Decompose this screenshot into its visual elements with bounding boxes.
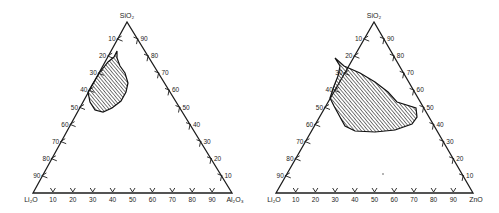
svg-text:90: 90 <box>208 196 216 203</box>
svg-text:60: 60 <box>417 86 425 93</box>
svg-text:70: 70 <box>296 138 304 145</box>
svg-text:90: 90 <box>33 172 41 179</box>
svg-text:70: 70 <box>169 196 177 203</box>
svg-text:70: 70 <box>52 138 60 145</box>
ternary-diagram-li2o-al2o3-sio2: 1020304050607080909080706050403020101020… <box>24 12 244 203</box>
svg-text:90: 90 <box>450 196 458 203</box>
vertex-label-right: Al₂O₃ <box>226 196 243 203</box>
svg-text:60: 60 <box>172 86 180 93</box>
svg-text:20: 20 <box>69 196 77 203</box>
svg-text:30: 30 <box>204 138 212 145</box>
svg-text:30: 30 <box>90 69 98 76</box>
svg-text:10: 10 <box>292 196 300 203</box>
tick-marks <box>41 36 222 192</box>
svg-text:60: 60 <box>391 196 399 203</box>
svg-text:80: 80 <box>151 52 159 59</box>
svg-text:20: 20 <box>345 52 353 59</box>
svg-text:40: 40 <box>351 196 359 203</box>
svg-text:10: 10 <box>355 35 363 42</box>
svg-text:60: 60 <box>306 121 314 128</box>
svg-text:10: 10 <box>225 172 233 179</box>
vertex-label-left: Li₂O <box>267 196 281 203</box>
svg-text:40: 40 <box>436 121 444 128</box>
svg-text:60: 60 <box>149 196 157 203</box>
vertex-label-top: SiO₂ <box>120 12 135 19</box>
svg-text:20: 20 <box>456 155 464 162</box>
svg-text:80: 80 <box>286 155 294 162</box>
svg-text:80: 80 <box>430 196 438 203</box>
svg-text:90: 90 <box>387 35 395 42</box>
svg-text:30: 30 <box>446 138 454 145</box>
svg-text:10: 10 <box>49 196 57 203</box>
svg-text:70: 70 <box>162 69 170 76</box>
svg-text:10: 10 <box>108 35 116 42</box>
svg-text:30: 30 <box>89 196 97 203</box>
svg-text:50: 50 <box>316 104 324 111</box>
svg-text:20: 20 <box>214 155 222 162</box>
svg-text:50: 50 <box>71 104 79 111</box>
triangle-outline <box>33 22 232 193</box>
svg-text:70: 70 <box>407 69 415 76</box>
svg-text:80: 80 <box>189 196 197 203</box>
vertex-label-right: ZnO <box>469 196 483 203</box>
glass-forming-region <box>330 58 417 132</box>
svg-text:20: 20 <box>99 52 107 59</box>
glass-forming-region <box>88 51 128 112</box>
ternary-diagrams: 1020304050607080909080706050403020101020… <box>0 0 499 213</box>
svg-text:50: 50 <box>427 104 435 111</box>
svg-text:30: 30 <box>335 69 343 76</box>
svg-text:60: 60 <box>61 121 69 128</box>
svg-text:10: 10 <box>466 172 474 179</box>
ternary-diagram-li2o-zno-sio2: 1020304050607080909080706050403020101020… <box>267 12 483 203</box>
svg-text:40: 40 <box>326 86 334 93</box>
svg-text:50: 50 <box>183 104 191 111</box>
tick-labels: 1020304050607080909080706050403020101020… <box>33 35 232 203</box>
svg-text:70: 70 <box>410 196 418 203</box>
svg-text:30: 30 <box>331 196 339 203</box>
svg-text:50: 50 <box>371 196 379 203</box>
svg-text:80: 80 <box>397 52 405 59</box>
svg-text:40: 40 <box>109 196 117 203</box>
speck <box>382 173 384 175</box>
svg-text:20: 20 <box>312 196 320 203</box>
vertex-label-left: Li₂O <box>24 196 38 203</box>
vertex-label-top: SiO₂ <box>367 12 382 19</box>
svg-text:90: 90 <box>141 35 149 42</box>
svg-text:80: 80 <box>43 155 51 162</box>
svg-text:40: 40 <box>193 121 201 128</box>
svg-text:90: 90 <box>277 172 285 179</box>
svg-text:50: 50 <box>129 196 137 203</box>
svg-text:40: 40 <box>80 86 88 93</box>
